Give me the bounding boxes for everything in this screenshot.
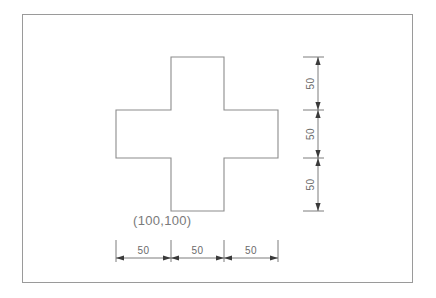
dimension-label-v-1: 50: [305, 77, 316, 89]
dimension-label-v-3: 50: [305, 178, 316, 190]
dimension-label-v-2: 50: [305, 128, 316, 140]
dimension-label-h-3: 50: [245, 245, 257, 256]
dimension-label-h-2: 50: [191, 245, 203, 256]
drawing-frame: [23, 15, 413, 283]
technical-drawing-svg: (100,100) 50 50: [0, 0, 436, 298]
drawing-canvas: (100,100) 50 50: [0, 0, 436, 298]
dimension-label-h-1: 50: [137, 245, 149, 256]
origin-coordinate-label: (100,100): [133, 213, 191, 228]
